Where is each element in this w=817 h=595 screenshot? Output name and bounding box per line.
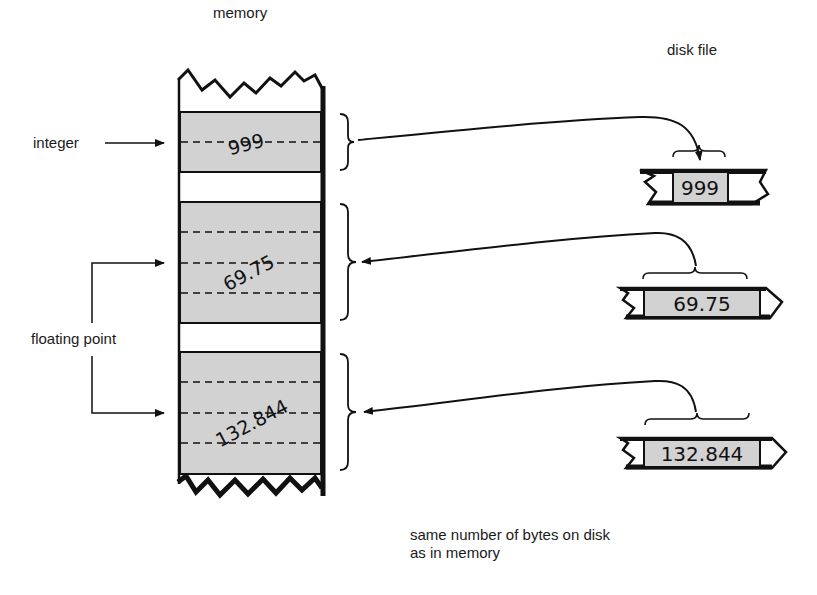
disk-record-integer: 999 [640, 145, 768, 204]
memory-title: memory [213, 4, 268, 21]
write-arrow-integer [358, 117, 700, 160]
disk-record-float-1: 69.75 [620, 267, 782, 318]
torn-edge-bottom [178, 476, 322, 495]
brace-integer [340, 114, 354, 170]
float-arrow-down [92, 356, 164, 413]
transfer-arrow-float-1 [362, 233, 696, 266]
floating-point-label: floating point [31, 330, 117, 347]
caption-line-2: as in memory [410, 544, 501, 561]
integer-label: integer [33, 134, 79, 151]
transfer-arrow-float-2 [364, 381, 696, 412]
disk-file-title: disk file [667, 41, 717, 58]
memory-column: 999 69.75 132.844 [178, 70, 323, 496]
disk-value-integer: 999 [681, 176, 719, 200]
torn-edge-top [178, 70, 322, 97]
brace-float-2 [340, 354, 356, 470]
disk-value-float-2: 132.844 [661, 442, 744, 466]
brace-float-1 [340, 204, 356, 320]
disk-record-float-2: 132.844 [620, 413, 786, 468]
caption-line-1: same number of bytes on disk [410, 526, 611, 543]
float-arrow-up [92, 263, 164, 323]
memory-disk-diagram: memory disk file 999 69.75 132.844 integ… [0, 0, 817, 595]
disk-value-float-1: 69.75 [673, 292, 730, 316]
